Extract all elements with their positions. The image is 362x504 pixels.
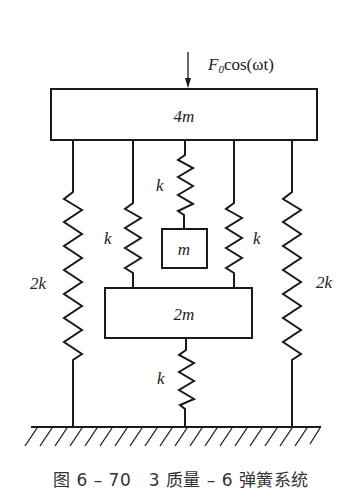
spring-left-inner <box>125 140 141 288</box>
spring-left-outer-label: 2k <box>30 274 47 293</box>
spring-mass-diagram: F0cos(ωt) 4m 2k k k m k 2k 2m k <box>0 0 362 504</box>
ground <box>25 427 321 446</box>
force-label: F0cos(ωt) <box>207 55 274 75</box>
spring-right-inner-label: k <box>253 229 261 248</box>
spring-right-outer <box>283 140 301 427</box>
spring-right-outer-label: 2k <box>316 273 333 292</box>
spring-center-top-label: k <box>156 176 164 195</box>
spring-center-top <box>178 140 193 229</box>
spring-left-outer <box>64 140 82 427</box>
mass-2m-label: 2m <box>174 305 195 324</box>
spring-right-inner <box>226 140 242 288</box>
spring-center-bottom-label: k <box>157 369 165 388</box>
force-arrow <box>185 52 191 88</box>
mass-4m-label: 4m <box>174 107 195 126</box>
spring-center-bottom <box>179 338 194 427</box>
spring-left-inner-label: k <box>104 229 112 248</box>
figure-caption: 图 6 – 70 3 质量 – 6 弹簧系统 <box>0 466 362 491</box>
mass-m-label: m <box>178 240 190 259</box>
